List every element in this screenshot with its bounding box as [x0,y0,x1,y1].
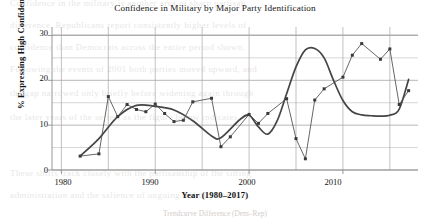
data-point-marker [266,112,269,115]
x-tick-2010: 2010 [313,177,353,187]
data-series-line [80,44,408,159]
x-tick-2000: 2000 [227,177,267,187]
y-tick-20: 20 [26,73,48,83]
data-point-marker [135,108,138,111]
data-point-marker [154,103,157,106]
data-point-marker [79,155,82,158]
data-point-marker [116,115,119,118]
axis-lines [48,27,418,174]
x-tick-1990: 1990 [130,177,170,187]
data-point-marker [351,54,354,57]
data-point-marker [323,87,326,90]
data-point-marker [360,42,363,45]
data-point-marker [97,152,100,155]
figure-container: Confidence in the military is another ar… [0,0,430,220]
data-point-marker [285,97,288,100]
plot-area [0,0,430,220]
data-point-marker [257,122,260,125]
data-point-marker [210,97,213,100]
x-tick-1980: 1980 [43,177,83,187]
data-point-marker [248,113,251,116]
data-point-marker [379,58,382,61]
data-point-marker [313,99,316,102]
data-point-marker [173,120,176,123]
data-point-marker [388,47,391,50]
data-point-marker [304,157,307,160]
chart-title: Confidence in Military by Major Party Id… [0,3,430,13]
gridlines [52,27,418,170]
data-point-marker [398,103,401,106]
data-point-marker [182,119,185,122]
data-point-marker [219,145,222,148]
data-point-marker [107,95,110,98]
data-point-marker [229,135,232,138]
y-tick-0: 0 [26,165,48,175]
data-point-marker [191,100,194,103]
y-axis-ticks: 30 20 10 0 [24,0,48,220]
data-point-marker [407,89,410,92]
data-point-marker [144,110,147,113]
trend-line [80,47,408,156]
data-point-marker [163,112,166,115]
y-tick-30: 30 [26,28,48,38]
figure-caption: Trendcurve Difference (Dem–Rep) [0,209,430,218]
y-tick-10: 10 [26,119,48,129]
x-axis-label: Year (1980–2017) [0,190,430,200]
data-point-marker [295,137,298,140]
data-point-marker [126,103,129,106]
data-point-markers [79,42,410,160]
data-point-marker [341,76,344,79]
